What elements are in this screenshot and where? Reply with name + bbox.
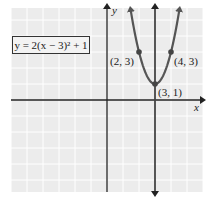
x-axis-label: x xyxy=(193,101,199,113)
y-axis-label: y xyxy=(111,4,117,16)
label-point-4-3: (4, 3) xyxy=(174,55,198,68)
equation-text: y = 2(x − 3)² + 1 xyxy=(14,39,87,51)
equation-box: y = 2(x − 3)² + 1 xyxy=(12,36,90,54)
label-point-2-3: (2, 3) xyxy=(110,55,134,68)
point-4-3 xyxy=(168,49,174,55)
vertex-point xyxy=(152,81,158,87)
label-vertex: (3, 1) xyxy=(158,86,182,99)
point-2-3 xyxy=(136,49,142,55)
graph: (2, 3) (4, 3) (3, 1) y x xyxy=(0,0,210,204)
